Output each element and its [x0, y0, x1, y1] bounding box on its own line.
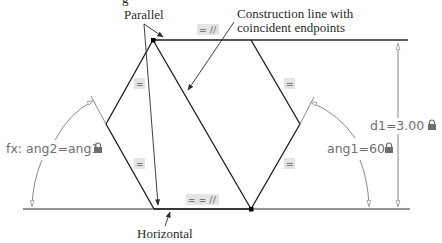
ang2-arc-lower: [32, 160, 42, 206]
edge-lower-left[interactable]: [106, 124, 154, 209]
equal-icon: =: [136, 159, 144, 169]
equal-icon: =: [136, 79, 144, 89]
horizontal-leader: [165, 212, 170, 226]
callout-construction-line-2: coincident endpoints: [237, 20, 345, 35]
ang1-arc-upper: [311, 102, 355, 138]
ang2-dimension[interactable]: fx: ang2=ang1: [6, 141, 102, 156]
constraint-badge-top-edge[interactable]: = //: [197, 24, 219, 35]
parallel-leader-1: [144, 24, 163, 37]
lock-icon: [385, 143, 393, 153]
constraint-badge-lower-left-edge[interactable]: =: [134, 158, 145, 169]
constraint-badge-lower-right-edge[interactable]: =: [284, 158, 295, 169]
callout-parallel: Parallel: [124, 7, 164, 22]
construction-line[interactable]: [153, 40, 251, 209]
ang2-label[interactable]: fx: ang2=ang1: [6, 141, 99, 156]
d1-dimension[interactable]: d1=3.00: [370, 118, 436, 133]
equal-parallel-icon: = //: [199, 25, 217, 35]
callout-horizontal: Horizontal: [137, 226, 193, 241]
equal-icon: =: [286, 159, 294, 169]
d1-label[interactable]: d1=3.00: [370, 118, 424, 133]
equal-icon: =: [286, 79, 294, 89]
constraint-badge-upper-right-edge[interactable]: =: [284, 78, 295, 89]
endpoint-bottom-right[interactable]: [249, 207, 254, 212]
endpoint-top-left[interactable]: [151, 38, 156, 43]
constraint-badge-bottom-edge[interactable]: = = //: [186, 194, 219, 205]
right-angle-extension: [300, 97, 314, 124]
lock-icon: [428, 120, 436, 130]
parallel-leader-2: [144, 24, 158, 205]
title-fragment: g: [122, 0, 129, 6]
ang2-arc-upper: [55, 101, 93, 140]
constraint-badge-upper-left-edge[interactable]: =: [134, 78, 145, 89]
ang1-dimension[interactable]: ang1=60: [327, 141, 393, 156]
ang1-label[interactable]: ang1=60: [327, 141, 385, 156]
callout-construction-line-1: Construction line with: [237, 6, 354, 21]
sketch-canvas: g d1=3.00 ang1=60 fx: ang2=ang1: [0, 0, 442, 243]
left-angle-extension: [91, 96, 106, 124]
equal-horizontal-parallel-icon: = = //: [188, 195, 217, 205]
ang1-arc-lower: [360, 160, 369, 206]
